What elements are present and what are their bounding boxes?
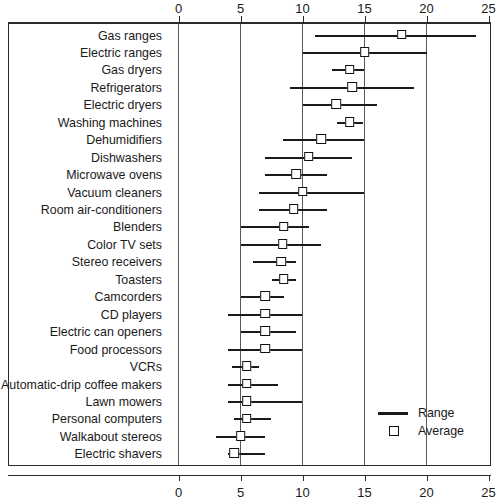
tick-top-label: 25 — [481, 2, 495, 15]
average-marker — [345, 65, 355, 75]
average-marker — [229, 448, 239, 458]
tick-top — [427, 16, 428, 22]
chart-root: 0510152025 0510152025 Range Average Gas … — [0, 0, 501, 498]
tick-bottom-label: 5 — [237, 486, 244, 498]
average-marker — [279, 274, 289, 284]
tick-bottom-label: 25 — [481, 486, 495, 498]
tick-top-label: 5 — [237, 2, 244, 15]
tick-top — [365, 16, 366, 22]
tick-top-label: 0 — [175, 2, 182, 15]
axis-bottom-line — [8, 475, 491, 476]
tick-bottom-label: 20 — [419, 486, 433, 498]
average-marker — [304, 152, 314, 162]
range-bar — [253, 261, 296, 263]
tick-bottom — [427, 475, 428, 481]
average-marker — [345, 117, 355, 127]
average-marker — [236, 431, 246, 441]
tick-bottom — [241, 475, 242, 481]
average-marker — [347, 82, 357, 92]
tick-top — [489, 16, 490, 22]
row-label: Electric shavers — [0, 444, 162, 464]
tick-top-label: 15 — [357, 2, 371, 15]
x-axis-top: 0510152025 — [0, 0, 501, 24]
tick-bottom-label: 15 — [357, 486, 371, 498]
tick-bottom — [365, 475, 366, 481]
chart-row[interactable]: Electric shavers — [0, 444, 501, 464]
range-bar — [228, 384, 278, 386]
average-marker — [289, 204, 299, 214]
average-marker — [397, 30, 407, 40]
tick-top — [179, 16, 180, 22]
average-marker — [277, 257, 287, 267]
average-marker — [278, 239, 288, 249]
tick-bottom-label: 10 — [295, 486, 309, 498]
average-marker — [242, 414, 252, 424]
tick-bottom — [489, 475, 490, 481]
tick-bottom — [303, 475, 304, 481]
average-marker — [242, 396, 252, 406]
tick-bottom — [179, 475, 180, 481]
average-marker — [298, 187, 308, 197]
tick-top — [303, 16, 304, 22]
range-bar — [234, 418, 271, 420]
average-marker — [360, 47, 370, 57]
range-bar — [241, 226, 309, 228]
average-marker — [260, 326, 270, 336]
tick-top-label: 10 — [295, 2, 309, 15]
average-marker — [331, 99, 341, 109]
x-axis-bottom: 0510152025 — [0, 474, 501, 498]
range-bar — [259, 192, 364, 194]
average-marker — [260, 291, 270, 301]
tick-top-label: 20 — [419, 2, 433, 15]
average-marker — [260, 309, 270, 319]
average-marker — [260, 344, 270, 354]
range-bar — [315, 35, 476, 37]
average-marker — [242, 361, 252, 371]
average-marker — [291, 169, 301, 179]
average-marker — [242, 379, 252, 389]
average-marker — [279, 222, 289, 232]
tick-bottom-label: 0 — [175, 486, 182, 498]
tick-top — [241, 16, 242, 22]
average-marker — [316, 134, 326, 144]
range-bar — [228, 401, 302, 403]
